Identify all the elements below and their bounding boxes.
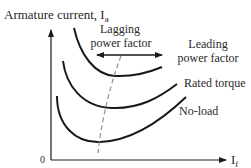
unity-pf-dashed-line [98, 56, 121, 153]
rated-torque-label: Rated torque [184, 76, 246, 90]
v-curve-diagram: Armature current, Ia If 0 Lagging power … [0, 0, 251, 168]
leading-label-line2: power factor [178, 51, 239, 65]
lagging-label-line1: Lagging [100, 22, 140, 36]
lagging-label-line2: power factor [91, 36, 152, 50]
no-load-curve [57, 96, 186, 142]
no-load-label: No-load [179, 104, 218, 118]
leading-label-line1: Leading [188, 37, 227, 51]
y-axis-label: Armature current, Ia [4, 7, 109, 24]
origin-label: 0 [40, 154, 45, 165]
x-axis-label: If [231, 152, 238, 168]
